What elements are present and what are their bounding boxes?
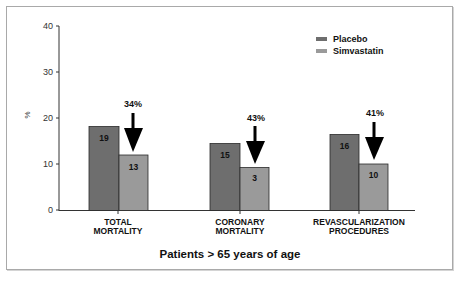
- y-tick-label: 0: [48, 205, 53, 215]
- down-arrow-icon: [124, 113, 143, 152]
- category-label: MORTALITY: [94, 226, 143, 236]
- x-axis-title: Patients > 65 years of age: [160, 248, 301, 260]
- bar-chart: 40 30 20 10 0 % 19 13 34% TOTAL MORTALIT…: [0, 0, 458, 282]
- legend: Placebo Simvastatin: [316, 34, 384, 56]
- y-tick-label: 30: [43, 67, 53, 77]
- y-axis-label: %: [23, 111, 32, 118]
- bar-value-label: 19: [99, 133, 109, 143]
- legend-label-placebo: Placebo: [333, 34, 368, 44]
- category-label: PROCEDURES: [329, 226, 389, 236]
- legend-swatch-simvastatin: [316, 49, 327, 53]
- bar-value-label: 13: [129, 162, 139, 172]
- reduction-label: 43%: [247, 113, 265, 123]
- category-label: MORTALITY: [216, 226, 265, 236]
- reduction-label: 34%: [124, 99, 142, 109]
- down-arrow-icon: [246, 126, 265, 164]
- y-tick-label: 10: [43, 159, 53, 169]
- bar-value-label: 15: [220, 150, 230, 160]
- down-arrow-icon: [365, 122, 384, 160]
- legend-label-simvastatin: Simvastatin: [333, 46, 384, 56]
- y-tick-label: 20: [43, 113, 53, 123]
- bar-value-label: 10: [369, 170, 379, 180]
- y-tick-label: 40: [43, 21, 53, 31]
- legend-swatch-placebo: [316, 37, 327, 41]
- bar-value-label: 3: [252, 173, 257, 183]
- reduction-label: 41%: [366, 108, 384, 118]
- bar-value-label: 16: [340, 141, 350, 151]
